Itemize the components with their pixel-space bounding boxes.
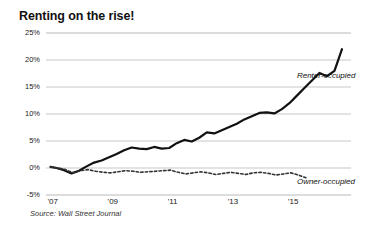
line-chart-plot (0, 0, 365, 228)
series-group (51, 49, 342, 178)
y-axis-tick-label: 10% (14, 109, 40, 118)
y-axis-tick-label: 0% (14, 163, 40, 172)
y-axis-tick-label: 5% (14, 136, 40, 145)
y-axis-tick-label: -5% (14, 190, 40, 199)
x-axis-tick-label: '13 (228, 197, 238, 206)
y-axis-tick-label: 15% (14, 82, 40, 91)
x-axis-tick-label: '07 (48, 197, 58, 206)
x-axis-tick-label: '15 (288, 197, 298, 206)
series-line-renter-occupied (51, 49, 342, 173)
x-axis-tick-label: '09 (108, 197, 118, 206)
x-axis-tick-label: '11 (168, 197, 178, 206)
series-label-owner-occupied: Owner-occupied (297, 177, 355, 186)
series-label-renter-occupied: Renter-occupied (297, 71, 356, 80)
series-line-owner-occupied (51, 167, 306, 178)
y-axis-tick-label: 20% (14, 55, 40, 64)
source-note: Source: Wall Street Journal (30, 209, 121, 218)
y-axis-tick-label: 25% (14, 28, 40, 37)
chart-figure: Renting on the rise! 25%20%15%10%5%0%-5%… (0, 0, 365, 228)
